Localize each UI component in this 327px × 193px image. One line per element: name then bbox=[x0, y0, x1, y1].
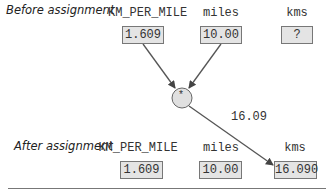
bottom-divider bbox=[8, 188, 326, 189]
before-value-kms: ? bbox=[281, 26, 313, 44]
before-var-km-per-mile: KM_PER_MILE bbox=[108, 6, 178, 20]
before-assignment-label: Before assignment bbox=[6, 3, 114, 17]
multiply-operator-symbol: * bbox=[178, 90, 184, 101]
after-var-kms: kms bbox=[279, 141, 311, 155]
after-var-km-per-mile: KM_PER_MILE bbox=[98, 141, 178, 155]
before-value-miles: 10.00 bbox=[200, 26, 242, 44]
computed-result: 16.09 bbox=[231, 110, 267, 124]
after-value-miles: 10.00 bbox=[199, 161, 242, 179]
after-value-kms: 16.090 bbox=[274, 161, 317, 179]
after-value-km-per-mile: 1.609 bbox=[120, 161, 163, 179]
before-value-km-per-mile: 1.609 bbox=[122, 26, 164, 44]
arrow-km-per-mile-to-multiply bbox=[143, 44, 175, 88]
after-var-miles: miles bbox=[196, 141, 246, 155]
before-var-kms: kms bbox=[281, 6, 313, 20]
before-var-miles: miles bbox=[196, 6, 246, 20]
arrow-miles-to-multiply bbox=[189, 44, 221, 88]
